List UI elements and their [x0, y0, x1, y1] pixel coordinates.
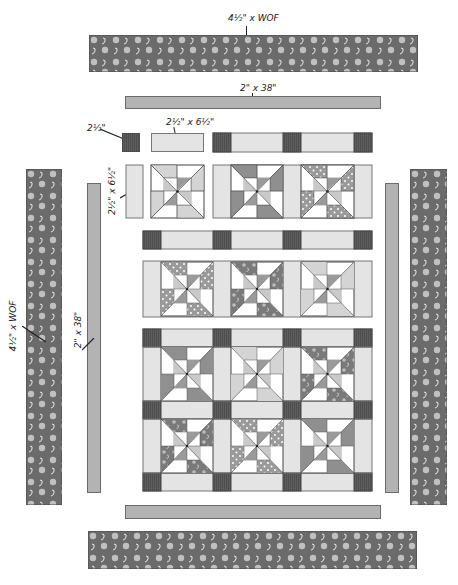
sashing-horizontal-label: 2½" x 6½" [166, 117, 214, 127]
block [151, 165, 204, 218]
outer-border-right-strip [410, 169, 447, 505]
inner-border-top-label: 2" x 38" [240, 83, 277, 93]
outer-border-top-strip [89, 35, 418, 72]
outer-border-left-label: 4½" x WOF [8, 301, 18, 352]
inner-border-right-strip [385, 183, 399, 493]
inner-border-left-leader [82, 338, 96, 352]
sashing-vertical-label: 2½" x 6½" [107, 167, 117, 215]
outer-border-top-label: 4½" x WOF [228, 13, 279, 23]
outer-border-left-leader [22, 326, 48, 344]
outer-border-bottom-strip [88, 531, 417, 569]
quilt-center [120, 130, 380, 496]
inner-border-top-strip [125, 96, 381, 109]
inner-border-bottom-strip [125, 505, 381, 519]
sashing-row-1 [213, 133, 372, 152]
